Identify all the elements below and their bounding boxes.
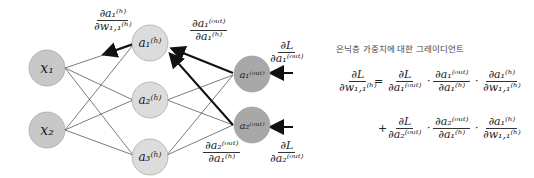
label-a1h: a₁⁽ʰ⁾ (138, 36, 161, 50)
dot: · (475, 75, 479, 88)
term-1-3: ∂a₁⁽ʰ⁾∂w₁,₁⁽ʰ⁾ (481, 69, 523, 94)
label-dL-da2out: ∂L∂a₂⁽ᵒᵘᵗ⁾ (268, 140, 305, 165)
term-2-1: ∂L∂a₂⁽ᵒᵘᵗ⁾ (386, 116, 423, 141)
label-d-a1h-dw11: ∂a₁⁽ʰ⁾∂w₁,₁⁽ʰ⁾ (92, 8, 134, 33)
label-x1: x₁ (40, 60, 54, 76)
formula-lhs: ∂L∂w₁,₁⁽ʰ⁾ (337, 69, 379, 94)
dot: · (427, 75, 431, 88)
arrow-a1h-to-w11 (105, 44, 133, 54)
label-d-a1out-da1h: ∂a₁⁽ᵒᵘᵗ⁾∂a₁⁽ʰ⁾ (190, 18, 227, 43)
arrow-a2out-to-a1h (171, 55, 233, 125)
label-d-a2out-da1h: ∂a₂⁽ᵒᵘᵗ⁾∂a₁⁽ʰ⁾ (203, 140, 240, 165)
label-x2: x₂ (40, 122, 54, 138)
term-1-1: ∂L∂a₁⁽ᵒᵘᵗ⁾ (386, 69, 423, 94)
arrow-a1out-to-a1h (173, 49, 233, 73)
label-a2h: a₂⁽ʰ⁾ (138, 93, 161, 107)
label-a2out: a₂⁽ᵒᵘᵗ⁾ (239, 120, 264, 131)
term-2-2: ∂a₂⁽ᵒᵘᵗ⁾∂a₁⁽ʰ⁾ (433, 116, 470, 141)
term-2-3: ∂a₁⁽ʰ⁾∂w₁,₁⁽ʰ⁾ (481, 116, 523, 141)
dot: · (475, 122, 479, 135)
dot: · (427, 122, 431, 135)
term-1-2: ∂a₁⁽ᵒᵘᵗ⁾∂a₁⁽ʰ⁾ (433, 69, 470, 94)
equals-sign: = (374, 75, 383, 88)
label-a3h: a₃⁽ʰ⁾ (138, 150, 161, 164)
label-a1out: a₁⁽ᵒᵘᵗ⁾ (239, 69, 264, 80)
label-dL-da1out: ∂L∂a₁⁽ᵒᵘᵗ⁾ (268, 40, 305, 65)
formula-title: 은닉층 가중치에 대한 그레이디언트 (336, 42, 464, 54)
